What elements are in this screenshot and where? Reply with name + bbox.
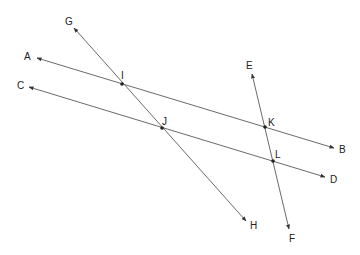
- label-K: K: [268, 117, 275, 128]
- geometry-diagram: G A C I J E K B L D H F: [0, 0, 360, 255]
- label-E: E: [246, 60, 253, 71]
- line-EF: [252, 74, 289, 229]
- line-GH: [74, 28, 246, 221]
- label-I: I: [121, 70, 124, 81]
- label-H: H: [250, 220, 257, 231]
- label-L: L: [275, 149, 281, 160]
- point-K: [263, 125, 267, 129]
- label-C: C: [17, 80, 24, 91]
- label-A: A: [24, 51, 31, 62]
- label-F: F: [289, 233, 295, 244]
- label-J: J: [162, 116, 167, 127]
- label-D: D: [330, 174, 337, 185]
- label-G: G: [65, 16, 73, 27]
- label-B: B: [339, 144, 346, 155]
- point-I: [120, 82, 124, 86]
